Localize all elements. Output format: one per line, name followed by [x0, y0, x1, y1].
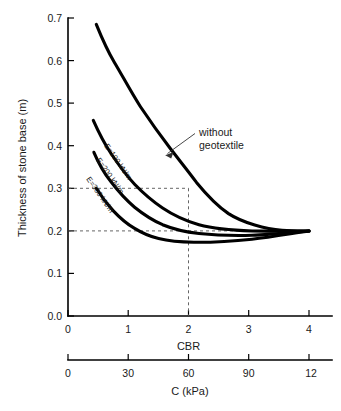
c-tick-label: 30: [122, 367, 134, 379]
chart-figure: 0.0 0.1 0.2 0.3 0.4 0.5 0.6 0.7 0 1 2 3 …: [0, 0, 341, 411]
annotation-without-geotextile-line1: without: [198, 126, 232, 138]
secondary-axis-title: C (kPa): [171, 385, 208, 397]
y-axis-ticks: [68, 18, 74, 316]
leader-line: [168, 134, 196, 154]
y-tick-label: 0.4: [47, 140, 62, 152]
x-axis: [68, 310, 332, 316]
secondary-axis-ticks: [68, 354, 309, 360]
y-tick-label: 0.6: [47, 55, 62, 67]
c-tick-label: 12: [305, 367, 317, 379]
y-tick-label: 0.5: [47, 97, 62, 109]
secondary-axis-c-kpa: [68, 354, 332, 360]
c-tick-label: 90: [243, 367, 255, 379]
annotation-without-geotextile-line2: geotextile: [199, 139, 244, 151]
x-tick-label: 3: [246, 323, 252, 335]
x-axis-title: CBR: [177, 340, 200, 352]
c-tick-label: 60: [183, 367, 195, 379]
y-axis: [68, 18, 74, 316]
leader-arrowhead-icon: [165, 152, 173, 159]
y-tick-label: 0.0: [47, 310, 62, 322]
y-tick-labels: 0.0 0.1 0.2 0.3 0.4 0.5 0.6 0.7: [47, 12, 62, 322]
secondary-axis-tick-labels: 0 30 60 90 12: [65, 367, 317, 379]
y-tick-label: 0.1: [47, 267, 62, 279]
x-tick-label: 4: [306, 323, 312, 335]
y-axis-title: Thickness of stone base (m): [16, 99, 28, 237]
y-tick-label: 0.3: [47, 182, 62, 194]
chart-canvas: 0.0 0.1 0.2 0.3 0.4 0.5 0.6 0.7 0 1 2 3 …: [0, 0, 341, 411]
x-tick-label: 0: [65, 323, 71, 335]
y-tick-label: 0.7: [47, 12, 62, 24]
c-tick-label: 0: [65, 367, 71, 379]
y-tick-label: 0.2: [47, 225, 62, 237]
x-tick-label: 1: [125, 323, 131, 335]
x-tick-labels: 0 1 2 3 4: [65, 323, 312, 335]
x-tick-label: 2: [186, 323, 192, 335]
